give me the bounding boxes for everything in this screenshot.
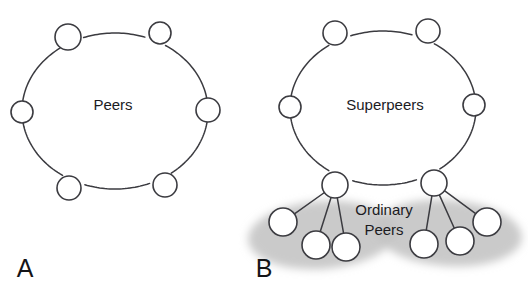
ordinary-peer-right-3 [473,208,501,236]
ordinary-peers-label-line2: Peers [364,221,403,238]
panel-a-center-label: Peers [93,96,132,113]
ring-link-b-3 [440,114,476,168]
ordinary-peer-left-3 [332,233,360,261]
ring-link-a-2 [166,46,207,100]
ordinary-peers-label-line1: Ordinary [355,201,413,218]
ring-link-b-5 [291,117,329,171]
panel-a-letter: A [17,254,34,282]
peer-node-bottom-right [153,173,177,197]
peer-node-top-left [55,24,81,50]
ring-link-a-4 [85,183,150,189]
ring-link-a-6 [23,48,60,102]
peer-node-top-right [149,22,171,44]
ring-link-a-3 [171,120,207,173]
figure-root: Peers Superpeers Ordinary Peers A B [0,0,528,298]
superpeer-node-top-right [416,19,440,43]
panel-b-center-label: Superpeers [346,96,424,113]
ring-link-a-1 [84,33,145,38]
ring-link-b-2 [434,44,474,96]
superpeer-node-bottom-left [322,172,348,198]
ordinary-peer-left-2 [302,231,330,259]
peer-node-bottom-left [57,176,81,200]
superpeer-node-top-left [323,21,347,45]
panel-b-letter: B [256,254,273,282]
peer-node-right [196,98,220,122]
figure-canvas: Peers Superpeers Ordinary Peers A B [0,0,528,298]
ordinary-peer-left-1 [269,208,297,236]
ordinary-peer-right-2 [446,227,474,255]
ring-link-b-1 [351,31,412,36]
superpeer-node-left [279,96,301,118]
superpeer-node-bottom-right [421,170,447,196]
superpeer-node-right [463,94,485,116]
ring-link-b-6 [291,45,329,97]
ordinary-peer-right-1 [410,230,438,258]
peer-node-left [11,101,33,123]
ring-link-b-4 [353,180,417,185]
ring-link-a-5 [23,122,63,176]
